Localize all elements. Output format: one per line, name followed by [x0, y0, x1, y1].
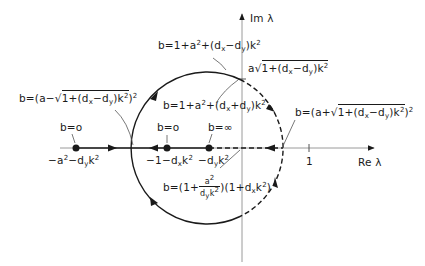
annotation-inner-b: b=1+a2+(dx+dy)k2	[163, 100, 266, 113]
annotation-top-b: b=1+a2+(dx−dy)k2	[158, 40, 261, 53]
imag-axis-label: Im λ	[250, 13, 274, 24]
point-b-label: b=o	[157, 122, 180, 133]
annotation-imag-intercept: a√1+(dx−dy)k2	[248, 63, 328, 76]
annotation-axis-crossing: b=(1+a2dyk2)(1+dxk2)	[163, 175, 271, 200]
arrow-right-icon	[108, 145, 117, 152]
point-b-label: b=o	[60, 122, 83, 133]
real-tick-label: 1	[306, 156, 313, 167]
annotation-left-crossing: b=(a−√1+(dx−dy)k2)2	[19, 93, 137, 106]
arrow-left-icon	[149, 145, 158, 152]
point-1dx	[164, 145, 171, 152]
arrow-left-icon	[265, 145, 275, 152]
point-coord-label: −a2−dyk2	[48, 155, 99, 168]
point-coord-label: −1−dxk2	[146, 155, 193, 168]
point-dy	[206, 145, 213, 152]
point-b-label: b=∞	[208, 122, 233, 133]
real-axis-label: Re λ	[358, 157, 382, 168]
annotation-right-crossing: b=(a+√1+(dx−dy)k2)2	[295, 107, 413, 120]
point-coord-label: −dyk2	[198, 155, 229, 168]
point-a2	[73, 145, 80, 152]
